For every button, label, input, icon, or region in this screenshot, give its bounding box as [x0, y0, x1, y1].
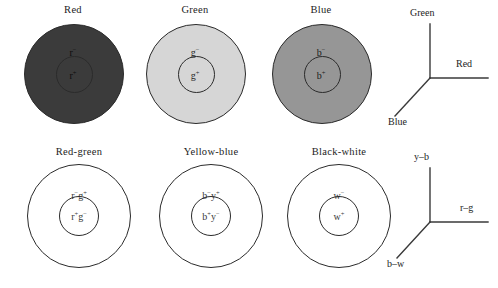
diagram-title-yellow-blue: Yellow-blue — [146, 146, 276, 157]
diagram-title-red-green: Red-green — [14, 146, 144, 157]
opponent-axis-label-black-white: b–w — [387, 258, 404, 269]
diagram-title-green: Green — [136, 4, 254, 15]
diagram-title-red: Red — [14, 4, 132, 15]
circle-group-red: r− r+ — [14, 22, 132, 126]
opponent-axis-diagonal — [397, 222, 430, 258]
circle-group-green: g− g+ — [136, 22, 254, 126]
diagram-red: Red r− r+ — [14, 4, 132, 134]
opponent-axes: y–b r–g b–w — [382, 148, 494, 284]
diagram-green: Green g− g+ — [136, 4, 254, 134]
diagram-title-blue: Blue — [262, 4, 380, 15]
inner-label-red-green: r+g− — [14, 212, 144, 222]
rgb-axis-label-red: Red — [456, 58, 472, 69]
opponent-axis-label-red-green: r–g — [460, 202, 473, 213]
diagram-red-green: Red-green r−g+ r+g− — [14, 146, 144, 284]
diagram-blue: Blue b− b+ — [262, 4, 380, 134]
inner-label-blue: b+ — [262, 71, 380, 81]
circle-group-yellow-blue: b−y+ b+y− — [146, 164, 276, 280]
inner-label-green: g+ — [136, 71, 254, 81]
rgb-axis-label-green: Green — [410, 7, 434, 18]
opponent-axis-label-yellow-blue: y–b — [414, 151, 429, 162]
inner-label-yellow-blue: b+y− — [146, 212, 276, 222]
rgb-axis-diagonal — [395, 78, 430, 116]
rgb-axes: Green Red Blue — [382, 6, 494, 132]
rgb-axis-label-blue: Blue — [388, 116, 407, 127]
circle-group-blue: b− b+ — [262, 22, 380, 126]
circle-group-red-green: r−g+ r+g− — [14, 164, 144, 280]
diagram-yellow-blue: Yellow-blue b−y+ b+y− — [146, 146, 276, 284]
inner-label-red: r+ — [14, 71, 132, 81]
opponent-color-figure: Red r− r+ Green g− g+ Blue b− b+ — [0, 0, 498, 288]
